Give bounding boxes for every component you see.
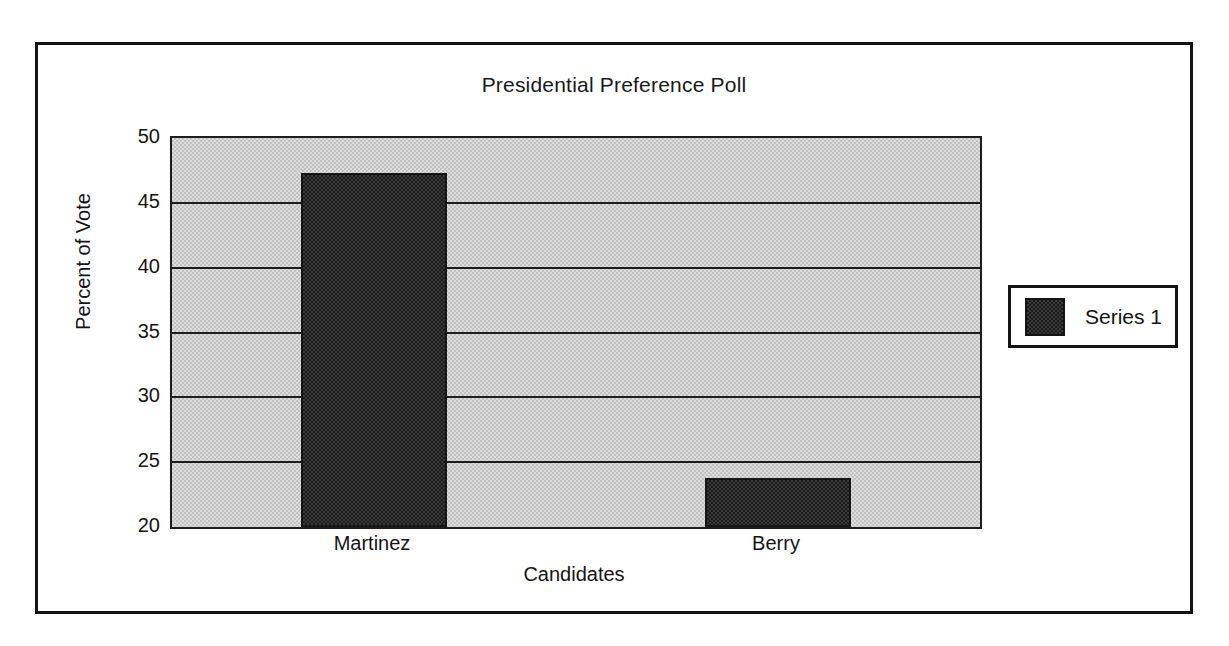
y-tick-label: 45	[114, 189, 160, 212]
chart-title: Presidential Preference Poll	[38, 73, 1190, 97]
x-tick-label: Berry	[752, 532, 800, 555]
y-axis-tick-labels: 50454035302520	[98, 136, 160, 525]
bar-martinez	[301, 173, 447, 527]
legend-swatch-series-1	[1025, 298, 1065, 336]
y-tick-label: 35	[114, 319, 160, 342]
chart-legend: Series 1	[1008, 285, 1178, 348]
y-tick-label: 40	[114, 254, 160, 277]
gridline	[172, 267, 980, 269]
bar-berry	[705, 478, 851, 527]
x-tick-label: Martinez	[334, 532, 411, 555]
y-axis-label: Percent of Vote	[72, 162, 95, 362]
gridline	[172, 396, 980, 398]
plot-area	[170, 136, 982, 529]
gridline	[172, 461, 980, 463]
y-tick-label: 30	[114, 384, 160, 407]
y-tick-label: 50	[114, 125, 160, 148]
x-axis-label: Candidates	[170, 563, 978, 586]
y-tick-label: 25	[114, 449, 160, 472]
chart-frame: Presidential Preference Poll Percent of …	[35, 42, 1193, 614]
gridline	[172, 332, 980, 334]
legend-label-series-1: Series 1	[1085, 305, 1162, 329]
gridline	[172, 202, 980, 204]
y-tick-label: 20	[114, 514, 160, 537]
